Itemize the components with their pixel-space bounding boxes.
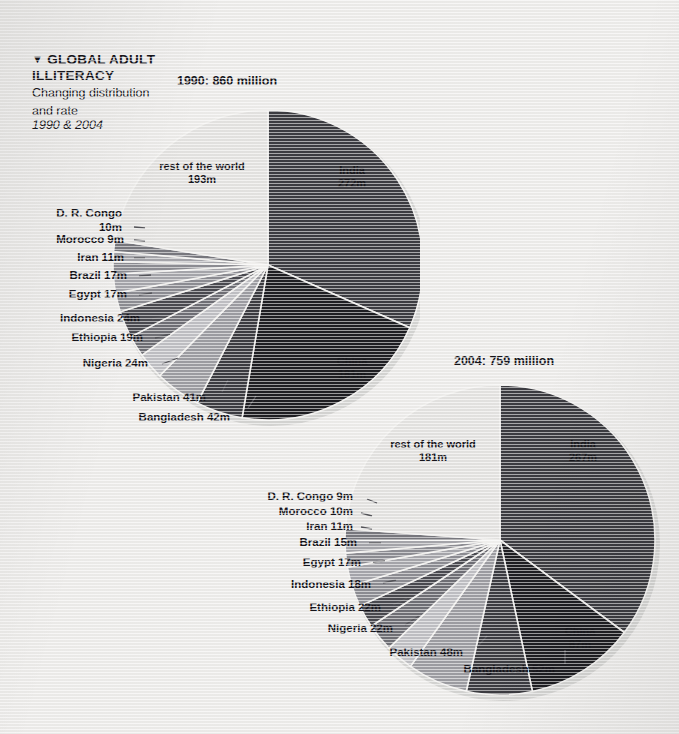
slice-label-china-line1: China <box>565 625 596 638</box>
slice-label-ethiopia-line1: Ethiopia 22m <box>255 601 381 615</box>
subtitle-line1: Changing distribution <box>32 86 202 101</box>
pie-slice-rest-of-the-world[interactable] <box>115 110 268 265</box>
slice-label-rest-of-the-world-line1: rest of the world <box>159 160 245 173</box>
slice-label-bangladesh: Bangladesh 42m <box>0 411 230 425</box>
triangle-marker-icon: ▼ <box>32 54 43 65</box>
slice-label-brazil-line1: Brazil 15m <box>255 536 357 550</box>
slice-label-d-r-congo: D. R. Congo 9m <box>255 490 353 504</box>
slice-label-iran: Iran 11m <box>255 520 353 534</box>
slice-label-rest-of-the-world-line1: rest of the world <box>390 438 476 451</box>
slice-label-rest-of-the-world: rest of the world193m <box>159 160 245 186</box>
slice-label-pakistan: Pakistan 48m <box>255 646 463 660</box>
slice-label-pakistan-line1: Pakistan 48m <box>255 646 463 660</box>
infographic-header: ▼GLOBAL ADULT ILLITERACY Changing distri… <box>32 52 202 133</box>
slice-label-morocco-line1: Morocco 9m <box>0 233 124 247</box>
slice-label-d-r-congo-line1: D. R. Congo <box>0 207 122 221</box>
pie-chart-2004: 2004: 759 million India267mChina87mBangl… <box>255 340 679 734</box>
slice-label-nigeria: Nigeria 24m <box>0 357 148 371</box>
slice-label-pakistan: Pakistan 41m <box>0 391 206 405</box>
slice-label-rest-of-the-world-line2: 193m <box>159 173 245 186</box>
subtitle-line2: and rate <box>32 104 202 119</box>
slice-label-bangladesh: Bangladesh 52m <box>255 663 555 677</box>
slice-label-d-r-congo-line2: 10m <box>0 221 122 235</box>
slice-label-ethiopia-line1: Ethiopia 19m <box>0 331 143 345</box>
slice-label-india-line1: India <box>338 164 366 177</box>
slice-label-nigeria: Nigeria 22m <box>255 622 393 636</box>
slice-label-indonesia: Indonesia 18m <box>255 578 371 592</box>
slice-label-egypt-line1: Egypt 17m <box>0 288 127 302</box>
slice-label-egypt: Egypt 17m <box>255 556 361 570</box>
slice-label-d-r-congo: D. R. Congo10m <box>0 207 122 234</box>
slice-label-morocco: Morocco 10m <box>255 505 353 519</box>
slice-label-iran: Iran 11m <box>0 251 124 265</box>
pie-2004-title: 2004: 759 million <box>454 354 554 368</box>
slice-label-morocco: Morocco 9m <box>0 233 124 247</box>
slice-label-iran-line1: Iran 11m <box>0 251 124 265</box>
slice-label-d-r-congo-line1: D. R. Congo 9m <box>255 490 353 504</box>
slice-label-nigeria-line1: Nigeria 24m <box>0 357 148 371</box>
slice-label-india: India272m <box>338 164 366 190</box>
slice-label-ethiopia: Ethiopia 19m <box>0 331 143 345</box>
page-title-line2: ILLITERACY <box>32 68 202 84</box>
slice-label-china-line2: 87m <box>565 638 596 651</box>
slice-label-rest-of-the-world-line2: 181m <box>390 451 476 464</box>
slice-label-bangladesh-line1: Bangladesh 52m <box>255 663 555 677</box>
slice-label-brazil: Brazil 15m <box>255 536 357 550</box>
slice-label-india-line2: 272m <box>338 177 366 190</box>
slice-label-india-line2: 267m <box>569 451 597 464</box>
slice-label-pakistan-line1: Pakistan 41m <box>0 391 206 405</box>
slice-label-indonesia-line1: Indonesia 24m <box>0 312 140 326</box>
slice-label-iran-line1: Iran 11m <box>255 520 353 534</box>
slice-label-ethiopia: Ethiopia 22m <box>255 601 381 615</box>
slice-label-india-line1: India <box>569 438 597 451</box>
slice-label-china: China87m <box>565 625 596 651</box>
page-title-line1: GLOBAL ADULT <box>47 52 155 67</box>
page-title: ▼GLOBAL ADULT <box>32 52 202 68</box>
slice-label-bangladesh-line1: Bangladesh 42m <box>0 411 230 425</box>
slice-label-brazil-line1: Brazil 17m <box>0 269 127 283</box>
slice-label-brazil: Brazil 17m <box>0 269 127 283</box>
slice-label-egypt: Egypt 17m <box>0 288 127 302</box>
subtitle-years: 1990 & 2004 <box>32 118 202 133</box>
slice-label-egypt-line1: Egypt 17m <box>255 556 361 570</box>
slice-label-rest-of-the-world: rest of the world181m <box>390 438 476 464</box>
slice-label-indonesia: Indonesia 24m <box>0 312 140 326</box>
slice-label-nigeria-line1: Nigeria 22m <box>255 622 393 636</box>
slice-label-indonesia-line1: Indonesia 18m <box>255 578 371 592</box>
slice-label-morocco-line1: Morocco 10m <box>255 505 353 519</box>
slice-label-india: India267m <box>569 438 597 464</box>
